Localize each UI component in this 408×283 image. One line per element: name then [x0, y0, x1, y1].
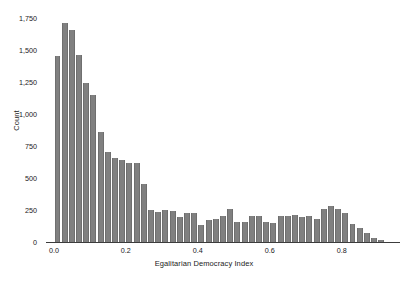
x-tick-label: 0.8 [337, 246, 347, 255]
histogram-bar [76, 55, 82, 242]
histogram-bar [112, 158, 118, 242]
y-tick-label: 0 [33, 238, 37, 247]
x-axis-tick-labels: 0.00.20.40.60.8 [46, 244, 400, 260]
y-axis-tick-labels: 02505007501,0001,2501,5001,750 [0, 0, 46, 283]
y-tick-label: 1,000 [19, 110, 37, 119]
x-axis-title: Egalitarian Democracy Index [0, 259, 408, 268]
histogram-bar [55, 56, 61, 242]
y-tick-label: 1,250 [19, 78, 37, 87]
histogram-bar [234, 222, 240, 242]
x-tick-label: 0.2 [121, 246, 131, 255]
y-tick-label: 500 [25, 174, 37, 183]
histogram-bar [62, 23, 68, 242]
x-tick-label: 0.4 [193, 246, 203, 255]
histogram-bar [321, 209, 327, 242]
histogram-bar [83, 83, 89, 242]
histogram-bar [184, 213, 190, 242]
histogram-bar [141, 184, 147, 242]
histogram-bar [126, 163, 132, 242]
histogram-bar [335, 209, 341, 242]
histogram-bar [206, 220, 212, 242]
histogram-bar [292, 215, 298, 242]
histogram-bar [328, 206, 334, 242]
histogram-bar [98, 132, 104, 242]
histogram-bar [306, 216, 312, 242]
histogram-bar [285, 216, 291, 242]
y-tick-label: 750 [25, 142, 37, 151]
histogram-bar [249, 216, 255, 242]
x-tick-label: 0.6 [265, 246, 275, 255]
plot-area [46, 18, 400, 242]
histogram-bar [357, 228, 363, 242]
histogram-bar [263, 222, 269, 242]
histogram-bar [278, 216, 284, 242]
histogram-bar [342, 213, 348, 242]
histogram-bar [256, 216, 262, 242]
y-tick-label: 1,750 [19, 14, 37, 23]
histogram-bar [177, 217, 183, 242]
histogram-bar [162, 210, 168, 242]
histogram-bar [191, 213, 197, 242]
histogram-bar [155, 212, 161, 242]
y-tick-label: 1,500 [19, 46, 37, 55]
histogram-bar [90, 95, 96, 242]
histogram-bar [105, 152, 111, 242]
histogram-bar [242, 222, 248, 242]
histogram-bar [350, 224, 356, 242]
histogram-bar [364, 233, 370, 242]
histogram-bar [119, 160, 125, 242]
histogram-bar [270, 223, 276, 242]
x-axis-line [46, 242, 400, 243]
x-tick-label: 0.0 [49, 246, 59, 255]
histogram-bar [220, 216, 226, 242]
histogram-bar [198, 225, 204, 242]
histogram-bar [227, 209, 233, 242]
y-tick-label: 250 [25, 206, 37, 215]
histogram-bar [170, 211, 176, 242]
histogram-bar [314, 219, 320, 242]
histogram-bar [148, 210, 154, 242]
histogram-bar [299, 217, 305, 242]
histogram-bar [213, 219, 219, 242]
histogram-bar [134, 163, 140, 242]
histogram-bar [69, 30, 75, 242]
histogram-figure: Count 02505007501,0001,2501,5001,750 0.0… [0, 0, 408, 283]
